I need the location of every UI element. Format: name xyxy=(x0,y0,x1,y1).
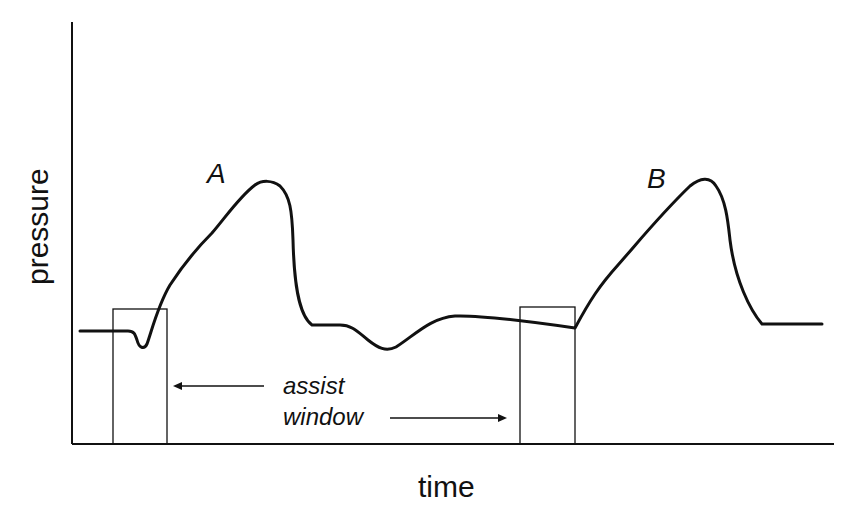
arrow-left-head xyxy=(173,382,182,390)
x-axis-label: time xyxy=(418,470,475,503)
curve-label-b: B xyxy=(647,163,666,194)
pressure-time-diagram: pressure time A B assist window xyxy=(0,0,866,527)
curve-label-a: A xyxy=(205,158,226,189)
assist-window-box-1 xyxy=(113,309,167,444)
y-axis-label: pressure xyxy=(21,168,54,285)
pressure-curve xyxy=(80,179,822,349)
arrow-right-head xyxy=(498,414,507,422)
annotation-line-1: assist xyxy=(283,372,346,399)
annotation-line-2: window xyxy=(283,403,365,430)
